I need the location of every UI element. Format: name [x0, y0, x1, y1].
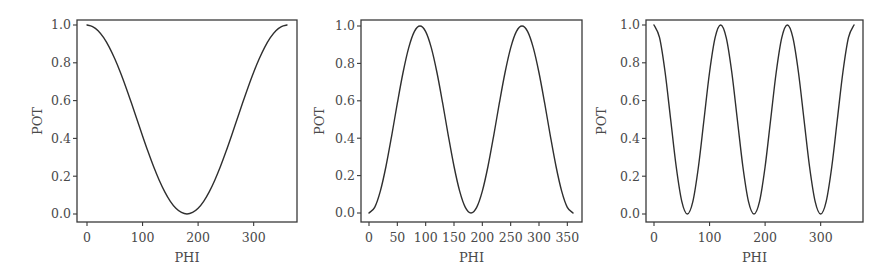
- x-tick-label: 200: [186, 230, 210, 245]
- y-tick-label: 0.4: [335, 131, 355, 146]
- y-tick-label: 0.6: [335, 93, 355, 108]
- y-tick-label: 0.2: [620, 169, 640, 184]
- x-axis-label: PHI: [459, 250, 484, 265]
- y-tick-label: 0.4: [620, 131, 640, 146]
- x-tick-label: 150: [442, 230, 466, 245]
- chart-panel-3: 0.00.20.40.60.81.00100200300PHIPOT: [594, 17, 863, 265]
- y-tick-label: 0.4: [51, 131, 71, 146]
- x-tick-label: 0: [83, 230, 91, 245]
- y-tick-label: 0.0: [51, 206, 71, 221]
- y-tick-label: 0.8: [51, 55, 71, 70]
- y-tick-label: 0.8: [620, 55, 640, 70]
- y-tick-label: 0.6: [620, 93, 640, 108]
- x-tick-label: 250: [499, 230, 523, 245]
- y-tick-label: 0.2: [335, 168, 355, 183]
- y-tick-label: 0.0: [335, 205, 355, 220]
- x-tick-label: 300: [242, 230, 266, 245]
- plot-frame: [646, 20, 863, 222]
- x-tick-label: 200: [470, 230, 494, 245]
- x-tick-label: 350: [555, 230, 579, 245]
- y-axis-label: POT: [312, 107, 327, 135]
- data-line: [87, 25, 287, 214]
- y-tick-label: 1.0: [620, 17, 640, 32]
- chart-panel-2: 0.00.20.40.60.81.0050100150200250300350P…: [312, 18, 582, 265]
- data-line: [654, 25, 854, 214]
- y-axis-label: POT: [594, 107, 609, 135]
- x-tick-label: 100: [698, 230, 722, 245]
- y-tick-label: 1.0: [51, 17, 71, 32]
- y-tick-label: 0.0: [620, 206, 640, 221]
- x-tick-label: 100: [131, 230, 155, 245]
- data-line: [369, 26, 573, 213]
- x-tick-label: 0: [650, 230, 658, 245]
- x-tick-label: 0: [365, 230, 373, 245]
- x-tick-label: 300: [527, 230, 551, 245]
- chart-panel-1: 0.00.20.40.60.81.00100200300PHIPOT: [30, 17, 297, 265]
- y-tick-label: 0.6: [51, 93, 71, 108]
- y-axis-label: POT: [30, 107, 45, 135]
- x-tick-label: 200: [753, 230, 777, 245]
- x-axis-label: PHI: [742, 250, 767, 265]
- y-tick-label: 1.0: [335, 18, 355, 33]
- plot-frame: [77, 20, 297, 222]
- x-tick-label: 100: [414, 230, 438, 245]
- y-tick-label: 0.8: [335, 56, 355, 71]
- figure: 0.00.20.40.60.81.00100200300PHIPOT 0.00.…: [0, 0, 888, 280]
- x-tick-label: 50: [389, 230, 405, 245]
- y-tick-label: 0.2: [51, 169, 71, 184]
- x-axis-label: PHI: [174, 250, 199, 265]
- x-tick-label: 300: [809, 230, 833, 245]
